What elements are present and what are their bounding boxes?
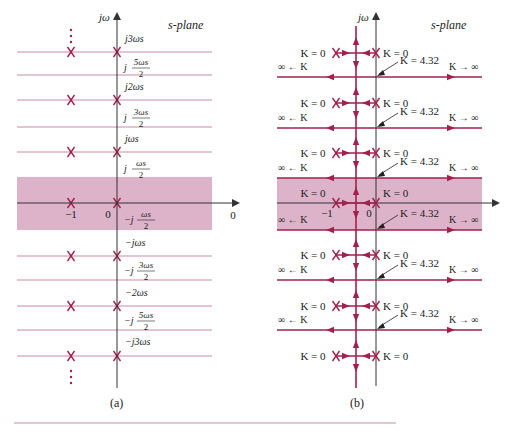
frac-numerator: 5ωs — [134, 57, 149, 67]
frac-denominator: 2 — [139, 69, 144, 79]
k-right-infinity-label: K → ∞ — [449, 112, 478, 123]
frac-prefix: −j — [124, 265, 134, 276]
k-left-infinity-label: ∞ ← K — [278, 61, 308, 72]
direction-arrow-icon — [326, 74, 334, 80]
frac-denominator: 2 — [144, 272, 149, 282]
direction-arrow-icon — [362, 50, 370, 56]
frac-numerator: 3ωs — [133, 107, 149, 117]
k-breakaway-label: K = 4.32 — [400, 207, 439, 219]
direction-arrow-icon — [353, 161, 359, 169]
frequency-label: −jωs — [125, 237, 146, 248]
direction-arrow-icon — [353, 37, 359, 45]
frequency-label: jωs — [123, 133, 139, 144]
figure-canvas: −100j3ωsj5ωs2j2ωsj3ωs2jωsjωs2−jωs2−jωs−j… — [0, 0, 514, 431]
direction-arrow-icon — [353, 111, 359, 119]
k-zero-label-right: K = 0 — [383, 249, 409, 261]
ellipsis-dot — [70, 376, 72, 378]
direction-arrow-icon — [353, 364, 359, 372]
direction-arrow-icon — [353, 263, 359, 271]
k-left-infinity-label: ∞ ← K — [278, 214, 308, 225]
panel-b-plane-label: s-plane — [431, 18, 466, 33]
k-left-infinity-label: ∞ ← K — [278, 264, 308, 275]
direction-arrow-icon — [326, 327, 334, 333]
k-right-infinity-label: K → ∞ — [449, 61, 478, 72]
frac-numerator: ωs — [141, 209, 151, 219]
k-zero-label-left: K = 0 — [300, 147, 326, 159]
k-zero-label-left: K = 0 — [300, 300, 326, 312]
direction-arrow-icon — [353, 290, 359, 298]
frac-numerator: ωs — [136, 158, 146, 168]
k-zero-label-left: K = 0 — [300, 47, 326, 59]
panel-b-root-locus: K = 4.32∞ ← KK → ∞K = 4.32∞ ← KK → ∞K = … — [277, 14, 498, 388]
root-locus-figure: −100j3ωsj5ωs2j2ωsj3ωs2jωsjωs2−jωs2−jωs−j… — [0, 0, 514, 431]
k-zero-label-left: K = 0 — [300, 187, 326, 199]
frac-prefix: −j — [124, 214, 134, 225]
frac-prefix: j — [122, 163, 127, 174]
k-left-infinity-label: ∞ ← K — [278, 162, 308, 173]
real-label-right-zero: 0 — [230, 209, 236, 221]
direction-arrow-icon — [342, 100, 350, 106]
direction-arrow-icon — [447, 74, 455, 80]
direction-arrow-icon — [362, 252, 370, 258]
frac-denominator: 2 — [139, 119, 144, 129]
ellipsis-dot — [70, 29, 72, 31]
frac-numerator: 3ωs — [138, 260, 154, 270]
panel-b-caption: (b) — [350, 396, 364, 411]
frequency-label: −2ωs — [125, 287, 148, 298]
direction-arrow-icon — [447, 277, 455, 283]
direction-arrow-icon — [353, 314, 359, 322]
frequency-label: j3ωs — [123, 33, 144, 44]
ellipsis-dot — [70, 370, 72, 372]
frac-prefix: j — [122, 112, 127, 123]
direction-arrow-icon — [362, 353, 370, 359]
ellipsis-dot — [70, 35, 72, 37]
frac-denominator: 2 — [139, 170, 144, 180]
k-right-infinity-label: K → ∞ — [449, 264, 478, 275]
panel-a-axis-label: jω — [99, 11, 110, 23]
ellipsis-dot — [70, 41, 72, 43]
frequency-label-fraction: jωs2 — [122, 158, 150, 180]
panel-a-plane-label: s-plane — [168, 18, 203, 33]
panel-a-s-plane-strips: −100j3ωsj5ωs2j2ωsj3ωs2jωsjωs2−jωs2−jωs−j… — [17, 14, 238, 388]
direction-arrow-icon — [342, 252, 350, 258]
real-label-minus-one: −1 — [65, 208, 77, 220]
real-label-zero: 0 — [105, 208, 111, 220]
frequency-label-fraction: −j5ωs2 — [124, 310, 155, 332]
direction-arrow-icon — [353, 87, 359, 95]
direction-arrow-icon — [353, 61, 359, 69]
direction-arrow-icon — [342, 150, 350, 156]
k-right-infinity-label: K → ∞ — [449, 162, 478, 173]
k-left-infinity-label: ∞ ← K — [278, 314, 308, 325]
k-zero-label-right: K = 0 — [383, 187, 409, 199]
frac-prefix: j — [122, 62, 127, 73]
k-right-infinity-label: K → ∞ — [449, 214, 478, 225]
direction-arrow-icon — [353, 340, 359, 348]
frequency-label-fraction: −j3ωs2 — [124, 260, 155, 282]
k-left-infinity-label: ∞ ← K — [278, 112, 308, 123]
ellipsis-dot — [70, 382, 72, 384]
k-zero-label-right: K = 0 — [383, 47, 409, 59]
direction-arrow-icon — [362, 303, 370, 309]
k-zero-label-left: K = 0 — [300, 249, 326, 261]
direction-arrow-icon — [326, 125, 334, 131]
direction-arrow-icon — [353, 239, 359, 247]
direction-arrow-icon — [342, 50, 350, 56]
frac-denominator: 2 — [144, 322, 149, 332]
direction-arrow-icon — [342, 353, 350, 359]
frac-numerator: 5ωs — [139, 310, 154, 320]
frequency-label: j2ωs — [123, 81, 144, 92]
k-zero-label-left: K = 0 — [300, 350, 326, 362]
direction-arrow-icon — [362, 100, 370, 106]
direction-arrow-icon — [353, 137, 359, 145]
direction-arrow-icon — [342, 303, 350, 309]
direction-arrow-icon — [447, 327, 455, 333]
k-zero-label-right: K = 0 — [383, 300, 409, 312]
panel-b-axis-label: jω — [358, 11, 369, 23]
frac-prefix: −j — [124, 315, 134, 326]
frequency-label-fraction: j5ωs2 — [122, 57, 150, 79]
frequency-label-fraction: j3ωs2 — [122, 107, 150, 129]
frequency-label: −j3ωs — [125, 336, 151, 347]
k-zero-label-right: K = 0 — [383, 147, 409, 159]
frac-denominator: 2 — [144, 221, 149, 231]
real-label-zero: 0 — [366, 207, 372, 219]
